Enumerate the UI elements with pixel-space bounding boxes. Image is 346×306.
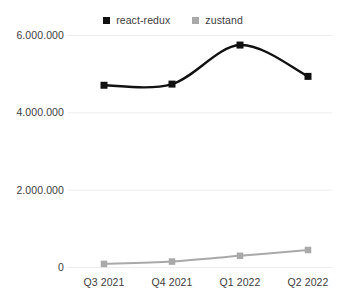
line-chart: react-redux zustand 02.000.0004.000.0006… <box>0 0 346 306</box>
x-tick-label-Q4-2021: Q4 2021 <box>152 276 193 288</box>
x-tick-label-Q3-2021: Q3 2021 <box>84 276 125 288</box>
x-tick-label-Q2-2022: Q2 2022 <box>288 276 329 288</box>
x-tick-label-Q1-2022: Q1 2022 <box>220 276 261 288</box>
x-axis-labels: Q3 2021Q4 2021Q1 2022Q2 2022 <box>0 0 346 306</box>
